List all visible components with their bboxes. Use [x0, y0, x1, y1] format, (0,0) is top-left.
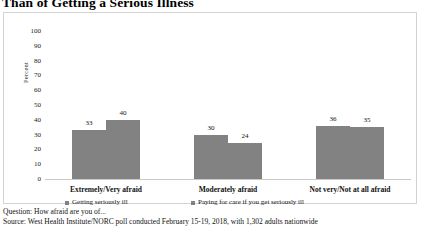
page-title: Than of Getting a Serious Illness: [2, 0, 194, 11]
bar[interactable]: [106, 120, 140, 179]
legend-swatch-icon: [191, 201, 195, 205]
x-axis-line: [45, 179, 411, 180]
bar-group: 3340Extremely/Very afraid: [45, 31, 167, 179]
x-axis-category-label: Not very/Not at all afraid: [310, 185, 391, 194]
plot-area: 1009080706050403020100 3340Extremely/Ver…: [45, 31, 411, 179]
y-axis-tick: 0: [38, 176, 42, 183]
y-axis-tick: 20: [34, 146, 41, 153]
y-axis-tick: 70: [34, 72, 41, 79]
y-axis-tick: 60: [34, 87, 41, 94]
bar-item[interactable]: 35: [350, 31, 384, 179]
y-axis-tick: 40: [34, 116, 41, 123]
bar-pair: 3635: [289, 31, 411, 179]
y-axis-title: Percent: [22, 43, 29, 103]
legend-swatch-icon: [65, 201, 69, 205]
bar-pair: 3340: [45, 31, 167, 179]
bar-value-label: 30: [194, 125, 228, 132]
bar-item[interactable]: 24: [228, 31, 262, 179]
bar[interactable]: [72, 130, 106, 179]
footnote-question: Question: How afraid are you of...: [3, 207, 418, 217]
legend-label: Getting seriously ill: [72, 199, 128, 206]
y-axis-tick: 90: [34, 42, 41, 49]
bar[interactable]: [228, 143, 262, 179]
legend-label: Paying for care if you get seriously ill: [198, 199, 304, 206]
x-axis-category-label: Moderately afraid: [199, 185, 258, 194]
bar-item[interactable]: 30: [194, 31, 228, 179]
bar[interactable]: [316, 126, 350, 179]
bar-value-label: 33: [72, 120, 106, 127]
bar-group: 3635Not very/Not at all afraid: [289, 31, 411, 179]
y-axis-tick: 80: [34, 57, 41, 64]
chart-panel: Percent 1009080706050403020100 3340Extre…: [3, 12, 417, 204]
footnote-source: Source: West Health Institute/NORC poll …: [3, 217, 418, 227]
bar-value-label: 36: [316, 116, 350, 123]
footnotes: Question: How afraid are you of... Sourc…: [3, 207, 418, 227]
bar-pair: 3024: [167, 31, 289, 179]
y-axis-tick: 50: [34, 102, 41, 109]
x-axis-category-label: Extremely/Very afraid: [70, 185, 142, 194]
legend-item[interactable]: Getting seriously ill: [65, 199, 128, 206]
bar-item[interactable]: 33: [72, 31, 106, 179]
bar-group: 3024Moderately afraid: [167, 31, 289, 179]
bar-value-label: 24: [228, 133, 262, 140]
y-axis-tick: 100: [31, 28, 42, 35]
bar-value-label: 40: [106, 110, 140, 117]
y-axis-tick: 10: [34, 161, 41, 168]
bar-item[interactable]: 40: [106, 31, 140, 179]
bar[interactable]: [194, 135, 228, 179]
bar[interactable]: [350, 127, 384, 179]
bar-item[interactable]: 36: [316, 31, 350, 179]
legend-item[interactable]: Paying for care if you get seriously ill: [191, 199, 304, 206]
y-axis-tick: 30: [34, 131, 41, 138]
bar-value-label: 35: [350, 117, 384, 124]
